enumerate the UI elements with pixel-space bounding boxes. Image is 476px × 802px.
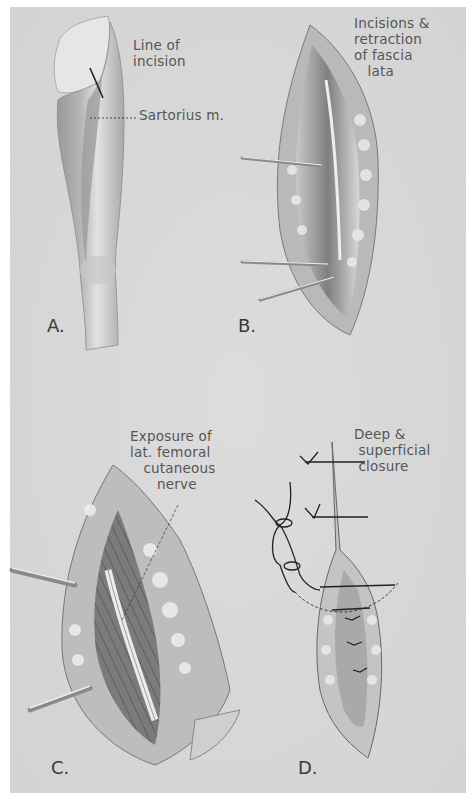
thigh-illustration xyxy=(0,0,240,360)
panel-letter-d: D. xyxy=(298,757,318,778)
closure-illustration xyxy=(240,420,476,802)
label-sartorius: Sartorius m. xyxy=(139,107,224,123)
panel-a: Line of incision Sartorius m. A. xyxy=(0,0,240,360)
label-exposure-nerve: Exposure of lat. femoral cutaneous nerve xyxy=(130,428,216,492)
panel-d: Deep & superficial closure D. xyxy=(240,420,476,802)
panel-letter-a: A. xyxy=(47,315,65,336)
panel-letter-b: B. xyxy=(238,315,256,336)
label-line-of-incision: Line of incision xyxy=(133,37,186,69)
panel-letter-c: C. xyxy=(51,757,69,778)
retracted-incision-illustration xyxy=(230,0,476,360)
label-deep-superficial-closure: Deep & superficial closure xyxy=(354,426,430,474)
panel-b: Incisions & retraction of fascia lata B. xyxy=(230,0,476,360)
label-incisions-retraction: Incisions & retraction of fascia lata xyxy=(354,15,429,79)
